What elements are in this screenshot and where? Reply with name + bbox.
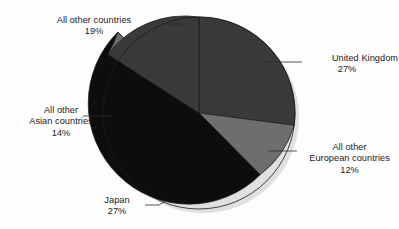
slice-label-all-other-countries: All other countries 19%	[34, 15, 154, 38]
slice-label-all-other-european-countries-name1: All other	[300, 142, 399, 153]
slice-label-all-other-asian-countries-value: 14%	[12, 128, 110, 139]
slice-label-united-kingdom: United Kingdom 27%	[306, 53, 398, 76]
pie-slice-united-kingdom	[199, 17, 295, 125]
slice-label-japan-name: Japan	[86, 195, 148, 206]
slice-label-all-other-countries-value: 19%	[34, 26, 154, 37]
slice-label-all-other-countries-name: All other countries	[34, 15, 154, 26]
slice-label-japan-value: 27%	[86, 206, 148, 217]
slice-label-all-other-european-countries-value: 12%	[300, 165, 399, 176]
pie-chart: All other countries 19% United Kingdom 2…	[0, 0, 399, 229]
slice-label-all-other-european-countries-name2: European countries	[300, 153, 399, 164]
slice-label-all-other-european-countries: All other European countries 12%	[300, 142, 399, 176]
slice-label-all-other-asian-countries-name1: All other	[12, 105, 110, 116]
slice-label-united-kingdom-name: United Kingdom	[306, 53, 398, 64]
slice-label-united-kingdom-value: 27%	[306, 64, 388, 75]
slice-label-japan: Japan 27%	[86, 195, 148, 218]
slice-label-all-other-asian-countries-name2: Asian countries	[12, 116, 110, 127]
slice-label-all-other-asian-countries: All other Asian countries 14%	[12, 105, 110, 139]
